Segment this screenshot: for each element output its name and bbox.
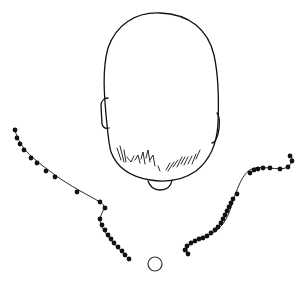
left-bead-chain [13,128,132,262]
figure-canvas [0,0,306,285]
right-bead-chain [183,154,295,257]
head-outline [104,13,218,181]
open-circle-marker [148,257,162,271]
drawing [0,0,306,285]
nape-hair-strokes [117,146,200,171]
